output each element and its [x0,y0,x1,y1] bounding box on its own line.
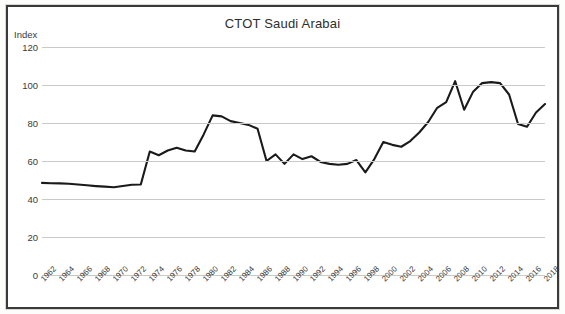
gridline-60 [42,161,545,162]
y-tick-label-80: 80 [4,118,38,129]
gridline-80 [42,123,545,124]
y-axis-unit-label: Index [14,29,37,40]
x-axis-tick-labels: 1962196419661968197019721974197619781980… [42,277,545,311]
y-axis-tick-labels: 020406080100120 [0,47,38,275]
y-tick-label-100: 100 [4,80,38,91]
y-tick-label-120: 120 [4,42,38,53]
plot-area [42,47,545,275]
gridline-40 [42,199,545,200]
chart-title: CTOT Saudi Arabai [0,16,565,31]
gridline-120 [42,47,545,48]
y-tick-label-40: 40 [4,194,38,205]
y-tick-label-0: 0 [4,270,38,281]
gridline-20 [42,237,545,238]
y-tick-label-60: 60 [4,156,38,167]
chart-page: CTOT Saudi Arabai Index 020406080100120 … [0,0,565,314]
gridline-100 [42,85,545,86]
y-tick-label-20: 20 [4,232,38,243]
